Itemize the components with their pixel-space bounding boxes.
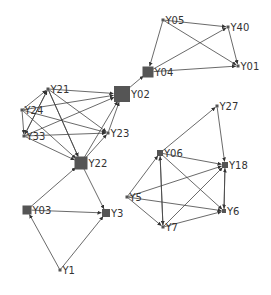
node-square-icon: [23, 135, 26, 138]
node-y27[interactable]: Y27: [216, 101, 239, 112]
node-square-icon: [21, 109, 24, 112]
node-y3[interactable]: Y3: [102, 208, 123, 219]
node-label: Y03: [32, 205, 52, 216]
node-square-icon: [162, 19, 165, 22]
node-y24[interactable]: Y24: [21, 105, 44, 116]
node-label: Y27: [219, 101, 239, 112]
node-square-icon: [59, 269, 62, 272]
node-label: Y1: [62, 265, 75, 276]
node-label: Y21: [50, 84, 70, 95]
node-square-icon: [47, 88, 50, 91]
node-y01[interactable]: Y01: [237, 61, 260, 72]
node-square-icon: [126, 196, 129, 199]
edge-y04-y40: [153, 28, 226, 69]
node-y21[interactable]: Y21: [47, 84, 70, 95]
node-y04[interactable]: Y04: [143, 67, 174, 79]
node-label: Y6: [226, 206, 239, 217]
node-label: Y24: [24, 105, 44, 116]
edge-y05-y04: [150, 21, 163, 66]
node-y40[interactable]: Y40: [227, 22, 250, 33]
edge-y5-y06: [128, 156, 158, 196]
node-y33[interactable]: Y33: [23, 131, 46, 142]
node-square-icon: [107, 132, 110, 135]
node-label: Y40: [230, 22, 250, 33]
node-label: Y3: [110, 208, 123, 219]
node-square-icon: [157, 150, 163, 156]
node-y7[interactable]: Y7: [162, 222, 178, 233]
edge-y5-y18: [128, 166, 221, 196]
node-square-icon: [23, 206, 32, 215]
node-label: Y06: [163, 148, 183, 159]
node-y03[interactable]: Y03: [23, 205, 52, 216]
node-label: Y01: [240, 61, 260, 72]
node-label: Y33: [26, 131, 46, 142]
node-y5[interactable]: Y5: [126, 192, 142, 203]
edge-y7-y06: [160, 156, 163, 225]
edge-y27-y18: [217, 107, 224, 161]
node-label: Y18: [228, 160, 248, 171]
node-square-icon: [102, 209, 110, 217]
edge-y7-y18: [164, 167, 222, 225]
node-square-icon: [114, 86, 130, 102]
node-square-icon: [162, 226, 165, 229]
edge-y6-y18: [224, 168, 225, 209]
node-y22[interactable]: Y22: [75, 157, 108, 170]
node-y6[interactable]: Y6: [222, 206, 239, 217]
edge-y1-y03: [29, 214, 59, 268]
node-label: Y04: [154, 67, 174, 78]
edge-layer: [22, 20, 237, 269]
node-y06[interactable]: Y06: [157, 148, 183, 159]
node-label: Y05: [165, 15, 185, 26]
node-label: Y22: [88, 158, 108, 169]
node-square-icon: [216, 105, 219, 108]
edge-y40-y01: [228, 28, 237, 64]
edge-y5-y6: [128, 197, 221, 210]
node-square-icon: [237, 65, 240, 68]
node-y23[interactable]: Y23: [107, 128, 130, 139]
node-square-icon: [143, 67, 154, 78]
node-label: Y23: [110, 128, 130, 139]
edge-y22-y3: [84, 169, 104, 209]
edge-y1-y3: [61, 217, 103, 269]
node-label: Y5: [129, 192, 142, 203]
node-square-icon: [227, 26, 230, 29]
node-square-icon: [222, 162, 228, 168]
node-square-icon: [222, 209, 226, 213]
node-label: Y7: [165, 222, 178, 233]
network-diagram: Y05Y40Y01Y04Y02Y21Y24Y33Y23Y22Y03Y3Y1Y27…: [0, 0, 271, 295]
node-label: Y02: [130, 89, 150, 100]
node-y02[interactable]: Y02: [114, 86, 150, 102]
node-layer: Y05Y40Y01Y04Y02Y21Y24Y33Y23Y22Y03Y3Y1Y27…: [21, 15, 260, 276]
edge-y02-y04: [128, 76, 143, 89]
edge-y03-y22: [30, 168, 75, 207]
node-y1[interactable]: Y1: [59, 265, 75, 276]
node-square-icon: [75, 157, 88, 170]
node-y05[interactable]: Y05: [162, 15, 185, 26]
node-y18[interactable]: Y18: [222, 160, 248, 171]
edge-y06-y27: [162, 107, 215, 151]
